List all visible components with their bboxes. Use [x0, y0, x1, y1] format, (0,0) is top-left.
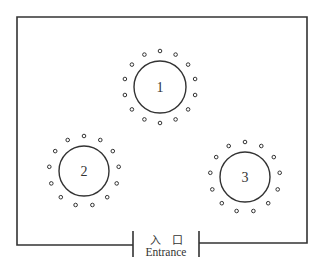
- seat-icon: [260, 144, 264, 148]
- seat-icon: [276, 188, 280, 192]
- seat-icon: [158, 49, 162, 53]
- entrance-label-english: Entrance: [146, 246, 187, 258]
- seat-icon: [59, 195, 63, 199]
- seat-icon: [272, 155, 276, 159]
- seat-icon: [174, 53, 178, 57]
- seat-icon: [130, 63, 134, 67]
- floor-plan: 123 入 口 Entrance: [0, 0, 326, 272]
- seat-icon: [227, 144, 231, 148]
- table-2: 2: [48, 134, 121, 207]
- seat-icon: [66, 138, 70, 142]
- seat-icon: [186, 108, 190, 112]
- entrance: 入 口 Entrance: [146, 234, 187, 258]
- seat-icon: [117, 165, 121, 169]
- table-3: 3: [209, 140, 282, 213]
- seat-icon: [174, 118, 178, 122]
- wall-right-segment: [162, 17, 307, 243]
- seat-icon: [91, 203, 95, 207]
- seat-icon: [278, 171, 282, 175]
- seat-icon: [158, 121, 162, 125]
- wall-left-segment: [17, 17, 162, 245]
- seat-icon: [130, 108, 134, 112]
- tables-group: 123: [48, 49, 282, 213]
- seat-icon: [220, 201, 224, 205]
- seat-icon: [193, 93, 197, 97]
- seat-icon: [214, 155, 218, 159]
- seat-icon: [243, 140, 247, 144]
- seat-icon: [123, 93, 127, 97]
- seat-icon: [82, 134, 86, 138]
- seat-icon: [74, 203, 78, 207]
- seat-icon: [143, 53, 147, 57]
- seat-icon: [123, 77, 127, 81]
- entrance-label-chinese: 入 口: [150, 234, 183, 246]
- seat-icon: [235, 209, 239, 213]
- seat-icon: [209, 171, 213, 175]
- seat-icon: [211, 188, 215, 192]
- seat-icon: [99, 138, 103, 142]
- seat-icon: [143, 118, 147, 122]
- room-walls: [17, 17, 307, 257]
- seat-icon: [53, 149, 57, 153]
- seat-icon: [111, 149, 115, 153]
- seat-icon: [105, 195, 109, 199]
- table-number-label: 1: [157, 80, 164, 95]
- seat-icon: [48, 165, 52, 169]
- seat-icon: [266, 201, 270, 205]
- seat-icon: [50, 182, 54, 186]
- table-number-label: 3: [242, 170, 249, 185]
- seat-icon: [115, 182, 119, 186]
- seat-icon: [252, 209, 256, 213]
- table-number-label: 2: [81, 164, 88, 179]
- table-1: 1: [123, 49, 197, 125]
- seat-icon: [193, 77, 197, 81]
- seat-icon: [186, 63, 190, 67]
